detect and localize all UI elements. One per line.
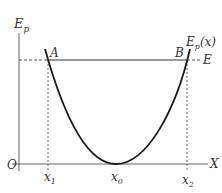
x-axis-label: X xyxy=(209,157,219,171)
x0-label: x0 xyxy=(111,170,123,186)
curve-label: Ep(x) xyxy=(185,35,216,51)
y-axis-label: Ep xyxy=(13,16,30,34)
point-a-label: A xyxy=(49,46,59,60)
point-b-label: B xyxy=(174,46,184,60)
origin-label: O xyxy=(7,158,17,172)
potential-curve xyxy=(45,49,190,164)
diagram-canvas: Ep A B Ep(x) E O X x1 x0 x2 xyxy=(0,0,222,193)
energy-level-label: E xyxy=(202,53,212,67)
potential-energy-diagram: Ep A B Ep(x) E O X x1 x0 x2 xyxy=(0,0,222,193)
x2-label: x2 xyxy=(182,173,194,189)
x1-label: x1 xyxy=(44,170,56,186)
